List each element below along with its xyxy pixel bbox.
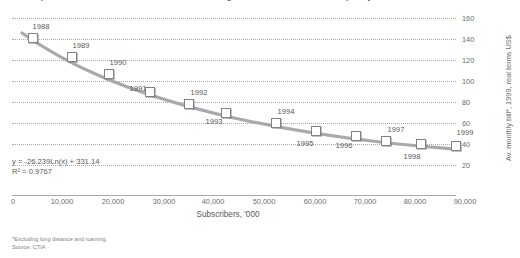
data-point-1997 [381,136,391,146]
y-tick-80: 80 [462,98,470,107]
data-point-1991 [145,87,155,97]
point-label-1989: 1989 [73,41,90,50]
point-label-1988: 1988 [33,22,50,31]
x-axis-label: Subscribers, '000 [0,210,456,219]
trendline-equation: y = -26.239Ln(x) + 331.14 [12,157,99,167]
source-note: Source: CTIA [12,244,46,250]
data-point-1994 [271,118,281,128]
y-tick-20: 20 [462,161,470,170]
trendline-r-squared: R² = 0.9767 [12,167,99,177]
point-label-1991: 1991 [130,84,147,93]
trendline-equation-block: y = -26.239Ln(x) + 331.14 R² = 0.9767 [12,157,99,177]
y-axis-label: Av. monthly bill*, 1999, real terms US$ [504,35,513,161]
point-label-1992: 1992 [191,88,208,97]
y-axis-label-wrap: Av. monthly bill*, 1999, real terms US$ [500,14,516,181]
data-point-1998 [416,139,426,149]
x-tick-0: 0 [11,197,15,206]
x-tick-50000: 50,000 [253,197,276,206]
x-tick-60000: 60,000 [304,197,327,206]
data-point-1988 [28,33,38,43]
x-tick-30000: 30,000 [153,197,176,206]
y-tick-60: 60 [462,119,470,128]
x-axis-line [12,195,456,196]
data-point-1993 [221,108,231,118]
point-label-1994: 1994 [278,107,295,116]
x-tick-80000: 80,000 [404,197,427,206]
x-tick-20000: 20,000 [102,197,125,206]
point-label-1990: 1990 [110,58,127,67]
chart-title: Operators have been able to drive down a… [34,0,486,1]
data-point-1999 [451,141,461,151]
data-point-1990 [104,69,114,79]
point-label-1993: 1993 [206,117,223,126]
data-point-1989 [67,52,77,62]
x-tick-70000: 70,000 [354,197,377,206]
y-tick-40: 40 [462,140,470,149]
y-tick-120: 120 [462,56,474,65]
point-label-1997: 1997 [388,125,405,134]
y-tick-100: 100 [462,77,474,86]
data-point-1992 [184,99,194,109]
y-tick-160: 160 [462,14,474,23]
x-tick-90000: 90,000 [454,197,477,206]
point-label-1995: 1995 [297,139,314,148]
point-label-1999: 1999 [457,128,474,137]
footnote: *Excluding long distance and roaming. [12,236,107,242]
point-label-1998: 1998 [404,152,421,161]
y-tick-140: 140 [462,35,474,44]
point-label-1996: 1996 [336,141,353,150]
data-point-1996 [351,131,361,141]
x-tick-40000: 40,000 [202,197,225,206]
chart-figure: Operators have been able to drive down a… [0,0,520,258]
x-tick-10000: 10,000 [51,197,74,206]
trend-line [12,14,456,181]
data-point-1995 [311,126,321,136]
